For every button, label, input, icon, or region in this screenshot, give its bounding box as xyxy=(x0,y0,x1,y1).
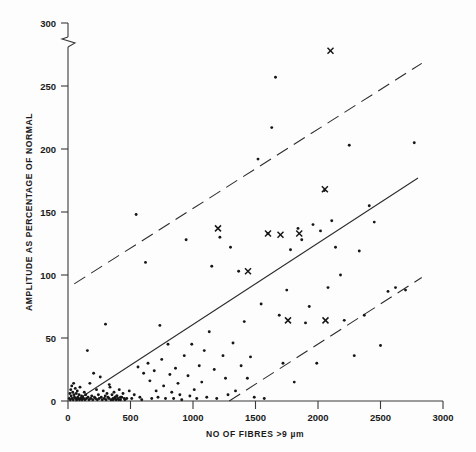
data-point-dot xyxy=(193,388,196,391)
y-tick-group: 0 50 100 150 200 250 300 xyxy=(40,18,68,407)
fit-lines-layer xyxy=(74,63,422,401)
data-point-dot xyxy=(70,384,73,387)
data-point-dot xyxy=(379,344,382,347)
data-point-dot xyxy=(125,397,128,400)
x-axis-title: NO OF FIBRES >9 µm xyxy=(206,429,304,439)
y-tick-label-100: 100 xyxy=(40,270,56,281)
scatter-plot-figure: 0 50 100 150 200 250 300 0 500 1000 1500… xyxy=(0,0,476,452)
data-point-cross xyxy=(265,230,271,236)
data-point-dot xyxy=(92,372,95,375)
data-point-dot xyxy=(72,382,75,385)
data-point-dot xyxy=(188,395,191,398)
data-point-dot xyxy=(142,372,145,375)
data-point-dot xyxy=(243,320,246,323)
data-point-dot xyxy=(180,398,183,401)
x-tick-label-3000: 3000 xyxy=(432,412,453,423)
data-point-dot xyxy=(172,397,175,400)
data-point-dot xyxy=(404,289,407,292)
data-point-dot xyxy=(368,204,371,207)
y-tick-label-300: 300 xyxy=(40,18,56,29)
data-point-dot xyxy=(79,386,82,389)
data-point-dot xyxy=(108,383,111,386)
data-point-dot xyxy=(343,319,346,322)
data-point-dot xyxy=(289,248,292,251)
data-point-cross xyxy=(296,230,302,236)
data-point-dot xyxy=(348,144,351,147)
plot-canvas: 0 50 100 150 200 250 300 0 500 1000 1500… xyxy=(0,0,476,452)
data-point-dot xyxy=(253,396,256,399)
data-point-dot xyxy=(160,358,163,361)
data-point-dot xyxy=(249,355,252,358)
y-axis-break-mark xyxy=(62,37,75,47)
data-point-dot xyxy=(104,323,107,326)
y-tick-label-250: 250 xyxy=(40,81,56,92)
data-point-dot xyxy=(118,388,121,391)
data-point-dot xyxy=(170,391,173,394)
data-point-dot xyxy=(97,393,100,396)
data-point-dot xyxy=(113,397,116,400)
data-point-dot xyxy=(158,324,161,327)
x-tick-label-2000: 2000 xyxy=(307,412,328,423)
data-point-cross xyxy=(278,232,284,238)
data-point-dot xyxy=(83,391,86,394)
data-point-dot xyxy=(312,223,315,226)
data-point-dot xyxy=(135,213,138,216)
data-point-dot xyxy=(95,388,98,391)
data-point-dot xyxy=(102,389,105,392)
data-point-dot xyxy=(373,221,376,224)
data-point-dot xyxy=(138,396,141,399)
data-point-dot xyxy=(260,303,263,306)
data-point-dot xyxy=(168,373,171,376)
data-point-dot xyxy=(282,362,285,365)
data-point-dot xyxy=(297,227,300,230)
data-point-dot xyxy=(237,270,240,273)
data-point-dot xyxy=(187,374,190,377)
data-point-dot xyxy=(210,265,213,268)
data-point-dot xyxy=(224,377,227,380)
data-point-dot xyxy=(300,238,303,241)
data-point-dot xyxy=(72,398,75,401)
data-point-dot xyxy=(190,343,193,346)
data-point-dot xyxy=(387,290,390,293)
data-point-dot xyxy=(227,393,230,396)
data-point-dot xyxy=(198,364,201,367)
data-point-dot xyxy=(104,395,107,398)
data-point-dot xyxy=(153,369,156,372)
data-point-dot xyxy=(144,261,147,264)
x-tick-label-2500: 2500 xyxy=(370,412,391,423)
upper-confidence-band xyxy=(74,63,422,284)
data-point-dot xyxy=(150,397,153,400)
data-point-dot xyxy=(88,382,91,385)
data-point-dot xyxy=(148,379,151,382)
data-point-dot xyxy=(413,141,416,144)
data-point-dot xyxy=(115,395,118,398)
data-point-dot xyxy=(218,236,221,239)
x-tick-label-0: 0 xyxy=(65,412,70,423)
data-point-dot xyxy=(285,289,288,292)
data-point-dot xyxy=(319,229,322,232)
regression-line xyxy=(76,178,419,401)
data-point-dot xyxy=(68,392,71,395)
data-point-dot xyxy=(293,381,296,384)
data-point-dot xyxy=(334,246,337,249)
data-point-dot xyxy=(84,393,87,396)
data-point-dot xyxy=(315,362,318,365)
data-point-cross xyxy=(215,225,221,231)
data-point-dot xyxy=(353,354,356,357)
data-point-dot xyxy=(130,397,133,400)
data-point-dot xyxy=(240,364,243,367)
data-point-dot xyxy=(358,250,361,253)
data-point-dot xyxy=(278,314,281,317)
lower-confidence-band xyxy=(229,278,422,401)
data-point-dot xyxy=(185,238,188,241)
data-point-dot xyxy=(203,349,206,352)
data-point-dot xyxy=(183,354,186,357)
data-point-dot xyxy=(74,387,77,390)
data-point-dot xyxy=(76,389,79,392)
y-tick-label-200: 200 xyxy=(40,144,56,155)
data-point-dot xyxy=(263,397,266,400)
y-tick-label-150: 150 xyxy=(40,207,56,218)
data-point-dot xyxy=(106,392,109,395)
data-point-dot xyxy=(91,398,94,401)
data-point-dot xyxy=(222,354,225,357)
